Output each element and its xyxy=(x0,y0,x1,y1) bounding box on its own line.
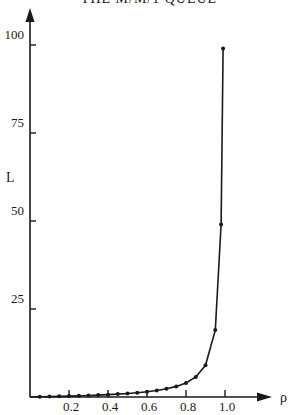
chart-plot: 255075100 0.20.40.60.81.0 L ρ xyxy=(0,0,298,415)
data-point xyxy=(145,390,149,394)
x-axis-label: ρ xyxy=(280,390,287,405)
data-markers xyxy=(38,47,225,399)
x-tick-label: 0.6 xyxy=(141,399,158,414)
data-point xyxy=(165,387,169,391)
data-point xyxy=(126,391,130,395)
y-tick-label: 25 xyxy=(11,291,24,306)
x-tick-label: 0.8 xyxy=(180,399,196,414)
data-point xyxy=(96,393,100,397)
data-point xyxy=(77,394,81,398)
y-tick-label: 100 xyxy=(5,27,25,42)
data-point xyxy=(219,223,223,227)
x-tick-label: 0.4 xyxy=(102,399,119,414)
y-axis-label: L xyxy=(6,170,15,185)
x-tick-label: 0.2 xyxy=(63,399,79,414)
data-point xyxy=(106,393,110,397)
y-axis xyxy=(26,8,35,397)
data-point xyxy=(38,395,42,399)
data-point xyxy=(184,381,188,385)
data-point xyxy=(116,392,120,396)
data-point xyxy=(57,394,61,398)
data-point xyxy=(174,384,178,388)
data-point xyxy=(135,391,139,395)
y-tick-label: 50 xyxy=(11,203,24,218)
data-point xyxy=(155,388,159,392)
data-point xyxy=(87,393,91,397)
data-point xyxy=(67,394,71,398)
data-line xyxy=(30,49,223,398)
data-point xyxy=(221,47,225,51)
x-axis-arrow-icon xyxy=(257,393,272,402)
data-point xyxy=(48,395,52,399)
y-ticks: 255075100 xyxy=(5,27,37,309)
y-axis-arrow-icon xyxy=(26,8,35,22)
x-tick-label: 1.0 xyxy=(219,399,235,414)
y-tick-label: 75 xyxy=(11,115,24,130)
data-point xyxy=(194,375,198,379)
data-point xyxy=(213,328,217,332)
data-point xyxy=(204,363,208,367)
